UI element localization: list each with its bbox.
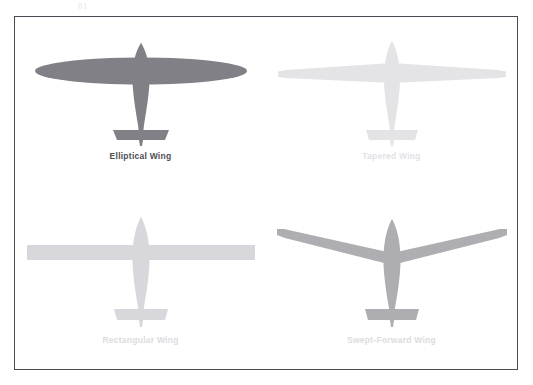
panel-rectangular-wing[interactable]: Rectangular Wing <box>15 193 266 369</box>
panel-label-rectangular-wing: Rectangular Wing <box>102 335 178 345</box>
wing-planform-panel-grid: Elliptical Wing <box>15 17 517 369</box>
elliptical-wing-silhouette <box>25 27 257 149</box>
panel-label-swept-forward-wing: Swept-Forward Wing <box>347 335 436 345</box>
airplane-top-view-icon-swept-forward <box>266 207 517 329</box>
panel-label-elliptical-wing: Elliptical Wing <box>110 151 172 161</box>
airplane-top-view-icon-tapered <box>266 27 517 149</box>
figure-frame: Elliptical Wing <box>14 16 518 370</box>
swept-forward-wing-silhouette <box>276 207 508 329</box>
panel-label-tapered-wing: Tapered Wing <box>362 151 421 161</box>
panel-swept-forward-wing[interactable]: Swept-Forward Wing <box>266 193 517 369</box>
airplane-top-view-icon-elliptical <box>15 27 266 149</box>
rectangular-wing-silhouette <box>25 207 257 329</box>
panel-elliptical-wing[interactable]: Elliptical Wing <box>15 17 266 193</box>
scan-artifact-text: 81 <box>78 1 104 11</box>
airplane-top-view-icon-rectangular <box>15 207 266 329</box>
panel-tapered-wing[interactable]: Tapered Wing <box>266 17 517 193</box>
tapered-wing-silhouette <box>276 27 508 149</box>
